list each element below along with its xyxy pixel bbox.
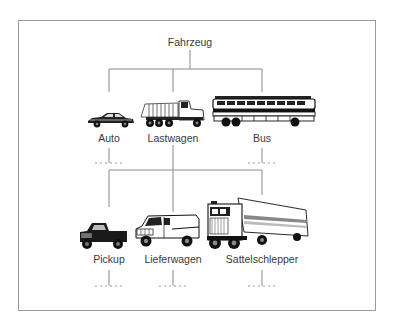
car-icon bbox=[86, 110, 136, 128]
pickup-truck-icon bbox=[78, 220, 129, 251]
node-label-bus: Bus bbox=[253, 133, 271, 144]
node-label-lastwagen: Lastwagen bbox=[148, 133, 199, 144]
dump-truck-icon bbox=[140, 99, 206, 128]
node-label-lieferwagen: Lieferwagen bbox=[144, 254, 201, 265]
node-label-pickup: Pickup bbox=[93, 254, 125, 265]
semi-truck-icon bbox=[206, 196, 309, 252]
bus-icon bbox=[212, 95, 317, 128]
node-label-sattelschlepper: Sattelschlepper bbox=[226, 254, 298, 265]
node-label-auto: Auto bbox=[98, 133, 120, 144]
node-label-root: Fahrzeug bbox=[168, 37, 212, 48]
van-icon bbox=[134, 211, 201, 251]
connector-lines bbox=[0, 0, 393, 330]
